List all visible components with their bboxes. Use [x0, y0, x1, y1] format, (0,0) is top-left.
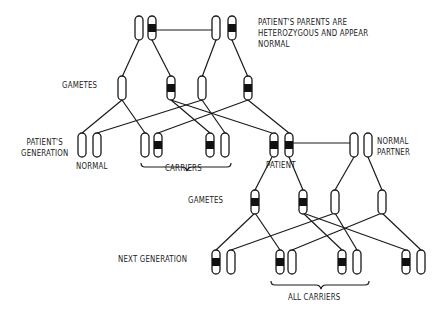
gametes-label-1: GAMETES	[62, 80, 97, 91]
parents-note: PATIENT'S PARENTS ARE HETEROZYGOUS AND A…	[258, 17, 368, 50]
normal-partner-label: NORMAL PARTNER	[377, 136, 410, 158]
carriers-label: CARRIERS	[165, 163, 202, 174]
patient-label: PATIENT	[266, 160, 296, 171]
gametes-label-2: GAMETES	[188, 195, 223, 206]
normal-label: NORMAL	[76, 161, 108, 172]
next-generation-label: NEXT GENERATION	[118, 254, 187, 265]
all-carriers-label: ALL CARRIERS	[288, 292, 340, 303]
patients-generation-label: PATIENT'S GENERATION	[21, 137, 68, 159]
